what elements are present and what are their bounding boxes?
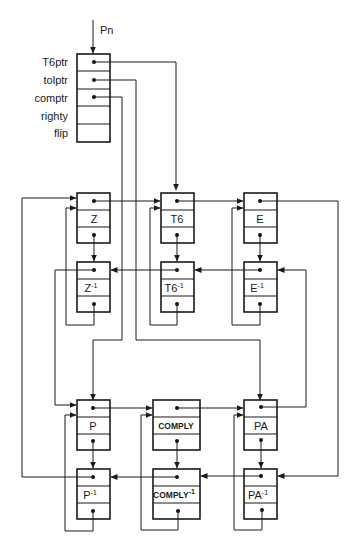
field-righty-label: righty xyxy=(41,110,68,122)
field-flip-label: flip xyxy=(54,127,68,139)
node-pa-inverse-sup: -1 xyxy=(262,489,268,496)
node-p-label: P xyxy=(89,420,96,432)
node-e-inverse-sup: -1 xyxy=(258,282,264,289)
node-p-inverse-sup: -1 xyxy=(91,489,97,496)
node-t6-label: T6 xyxy=(171,213,184,225)
node-comply-inverse-sup: -1 xyxy=(189,488,195,495)
field-t6ptr-label: T6ptr xyxy=(42,56,68,68)
node-comply-label: COMPLY xyxy=(158,421,194,431)
node-z-label: Z xyxy=(91,213,98,225)
entry-pointer-label: Pn xyxy=(100,24,113,36)
node-e-label: E xyxy=(256,213,263,225)
linked-structure-diagram: Pn T6ptr tolptr comptr righty flip Z xyxy=(0,0,356,552)
node-z-inverse-sup: -1 xyxy=(91,282,97,289)
node-p-inverse-label: P xyxy=(83,489,90,501)
node-pa-inverse-label: PA xyxy=(248,489,263,501)
field-comptr-label: comptr xyxy=(34,92,68,104)
node-e-inverse-label: E xyxy=(250,282,257,294)
entry-pointer: Pn xyxy=(93,20,113,53)
node-t6-inverse-label: T6 xyxy=(164,282,177,294)
field-tolptr-label: tolptr xyxy=(44,74,69,86)
node-t6-inverse-sup: -1 xyxy=(177,282,183,289)
node-pa-label: PA xyxy=(254,420,269,432)
node-comply-inverse-label: COMPLY xyxy=(153,490,189,500)
root-record: T6ptr tolptr comptr righty flip xyxy=(34,54,110,142)
